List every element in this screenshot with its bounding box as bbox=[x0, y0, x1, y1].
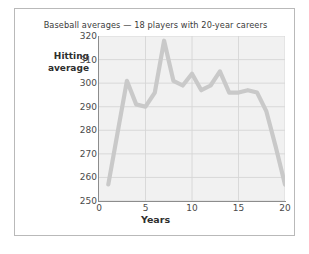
y-tick-label: 260 bbox=[57, 172, 97, 182]
x-tick-label: 0 bbox=[84, 203, 114, 213]
data-series-line bbox=[108, 41, 285, 185]
x-tick-label: 20 bbox=[270, 203, 300, 213]
plot-area bbox=[99, 36, 285, 201]
x-tick-label: 15 bbox=[224, 203, 254, 213]
chart-svg bbox=[99, 36, 285, 201]
y-axis-tick-labels: 250260270280290300310320 bbox=[53, 36, 97, 201]
y-tick-label: 320 bbox=[57, 31, 97, 41]
y-tick-label: 300 bbox=[57, 78, 97, 88]
vertical-gridlines bbox=[146, 36, 286, 201]
y-tick-label: 310 bbox=[57, 55, 97, 65]
y-tick-label: 280 bbox=[57, 125, 97, 135]
x-tick-label: 10 bbox=[177, 203, 207, 213]
y-tick-label: 290 bbox=[57, 102, 97, 112]
x-tick-label: 5 bbox=[131, 203, 161, 213]
chart-figure: Baseball averages — 18 players with 20-y… bbox=[14, 8, 295, 236]
x-axis-title: Years bbox=[15, 214, 296, 225]
y-axis-line bbox=[98, 36, 99, 202]
chart-title: Baseball averages — 18 players with 20-y… bbox=[15, 20, 296, 30]
y-tick-label: 270 bbox=[57, 149, 97, 159]
